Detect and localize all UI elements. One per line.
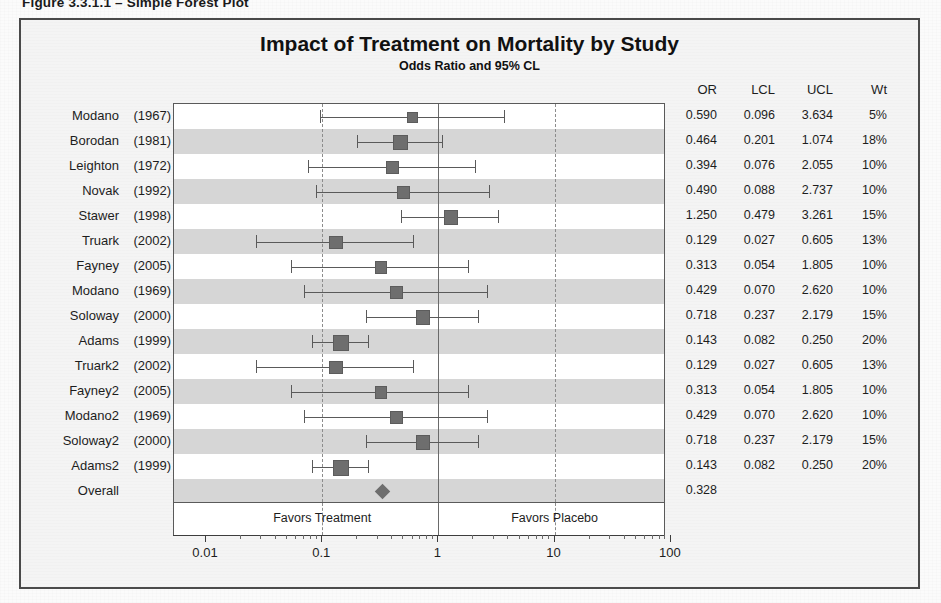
cell-wt: 20% bbox=[847, 458, 887, 472]
ci-upper-cap bbox=[478, 435, 479, 448]
odds-ratio-marker bbox=[375, 386, 388, 399]
x-axis-minor-tick bbox=[635, 535, 636, 539]
cell-ucl: 2.179 bbox=[781, 308, 833, 322]
cell-lcl: 0.054 bbox=[723, 383, 775, 397]
study-label-row: Modano(1967) bbox=[0, 103, 171, 128]
study-name: Novak bbox=[82, 183, 119, 198]
cell-ucl: 3.261 bbox=[781, 208, 833, 222]
odds-ratio-marker bbox=[444, 210, 458, 224]
odds-ratio-marker bbox=[329, 236, 343, 250]
cell-wt: 15% bbox=[847, 208, 887, 222]
ci-lower-cap bbox=[291, 260, 292, 273]
odds-ratio-marker bbox=[416, 435, 430, 449]
x-axis-minor-tick bbox=[310, 535, 311, 539]
ci-lower-cap bbox=[256, 360, 257, 373]
study-name: Truark bbox=[82, 233, 119, 248]
cell-lcl: 0.237 bbox=[723, 433, 775, 447]
favors-treatment-label: Favors Treatment bbox=[273, 511, 371, 525]
cell-lcl: 0.070 bbox=[723, 408, 775, 422]
study-name: Adams bbox=[79, 333, 119, 348]
cell-wt: 10% bbox=[847, 408, 887, 422]
odds-ratio-marker bbox=[386, 161, 399, 174]
x-axis-minor-tick bbox=[303, 535, 304, 539]
ci-upper-cap bbox=[489, 185, 490, 198]
cell-ucl: 0.605 bbox=[781, 233, 833, 247]
ci-lower-cap bbox=[312, 335, 313, 348]
x-axis-major-tick bbox=[321, 535, 322, 542]
cell-or: 0.143 bbox=[665, 458, 717, 472]
x-axis-minor-tick bbox=[472, 535, 473, 539]
x-axis-minor-tick bbox=[644, 535, 645, 539]
cell-ucl: 1.805 bbox=[781, 258, 833, 272]
cell-or: 0.143 bbox=[665, 333, 717, 347]
odds-ratio-marker bbox=[329, 361, 343, 375]
cell-ucl: 2.620 bbox=[781, 408, 833, 422]
cell-ucl: 2.179 bbox=[781, 433, 833, 447]
study-year: (2000) bbox=[119, 308, 171, 323]
ci-lower-cap bbox=[308, 160, 309, 173]
cell-wt: 10% bbox=[847, 258, 887, 272]
ci-lower-cap bbox=[291, 385, 292, 398]
study-name: Overall bbox=[78, 483, 119, 498]
cell-or: 0.313 bbox=[665, 383, 717, 397]
odds-ratio-marker bbox=[333, 460, 349, 476]
cell-or: 0.590 bbox=[665, 108, 717, 122]
odds-ratio-marker bbox=[397, 186, 410, 199]
ci-upper-cap bbox=[413, 360, 414, 373]
ci-upper-cap bbox=[413, 235, 414, 248]
ci-upper-cap bbox=[504, 110, 505, 123]
odds-ratio-marker bbox=[375, 261, 388, 274]
study-year: (2005) bbox=[119, 258, 171, 273]
cell-or: 0.429 bbox=[665, 283, 717, 297]
column-header-lcl: LCL bbox=[723, 82, 775, 97]
cell-lcl: 0.201 bbox=[723, 133, 775, 147]
odds-ratio-marker bbox=[416, 310, 430, 324]
cell-lcl: 0.082 bbox=[723, 333, 775, 347]
chart-subtitle: Odds Ratio and 95% CL bbox=[21, 59, 918, 73]
study-year: (2002) bbox=[119, 233, 171, 248]
odds-ratio-marker bbox=[390, 286, 403, 299]
study-name: Soloway bbox=[70, 308, 119, 323]
cell-or: 0.328 bbox=[665, 483, 717, 497]
ci-upper-cap bbox=[487, 285, 488, 298]
cell-wt: 10% bbox=[847, 283, 887, 297]
study-year: (1999) bbox=[119, 458, 171, 473]
study-year: (1998) bbox=[119, 208, 171, 223]
study-label-row: Adams(1999) bbox=[0, 328, 171, 353]
x-axis-major-tick bbox=[554, 535, 555, 542]
cell-or: 0.464 bbox=[665, 133, 717, 147]
cell-ucl: 2.055 bbox=[781, 158, 833, 172]
cell-lcl: 0.027 bbox=[723, 358, 775, 372]
cell-lcl: 0.070 bbox=[723, 283, 775, 297]
cell-ucl: 3.634 bbox=[781, 108, 833, 122]
ci-lower-cap bbox=[401, 210, 402, 223]
x-axis-minor-tick bbox=[275, 535, 276, 539]
x-axis-tick-label: 10 bbox=[546, 545, 560, 560]
cell-or: 0.394 bbox=[665, 158, 717, 172]
study-label-row: Stawer(1998) bbox=[0, 203, 171, 228]
x-axis-minor-tick bbox=[260, 535, 261, 539]
x-axis-minor-tick bbox=[377, 535, 378, 539]
study-name: Soloway2 bbox=[63, 433, 119, 448]
x-axis-minor-tick bbox=[589, 535, 590, 539]
study-name: Borodan bbox=[70, 133, 119, 148]
x-axis-minor-tick bbox=[295, 535, 296, 539]
ci-upper-cap bbox=[368, 335, 369, 348]
study-label-row: Modano2(1969) bbox=[0, 403, 171, 428]
study-label-row: Truark(2002) bbox=[0, 228, 171, 253]
cell-or: 0.718 bbox=[665, 308, 717, 322]
favors-null-line bbox=[438, 503, 439, 535]
column-header-wt: Wt bbox=[847, 82, 887, 97]
x-axis-major-tick bbox=[437, 535, 438, 542]
x-axis-minor-tick bbox=[419, 535, 420, 539]
x-axis-major-tick bbox=[205, 535, 206, 542]
favors-strip: Favors TreatmentFavors Placebo bbox=[173, 503, 665, 535]
ci-lower-cap bbox=[366, 310, 367, 323]
study-year: (1992) bbox=[119, 183, 171, 198]
forest-plot-area bbox=[173, 103, 665, 503]
overall-diamond-marker bbox=[374, 484, 390, 500]
x-axis-minor-tick bbox=[609, 535, 610, 539]
x-axis-major-tick bbox=[670, 535, 671, 542]
ci-lower-cap bbox=[312, 460, 313, 473]
cell-wt: 5% bbox=[847, 108, 887, 122]
